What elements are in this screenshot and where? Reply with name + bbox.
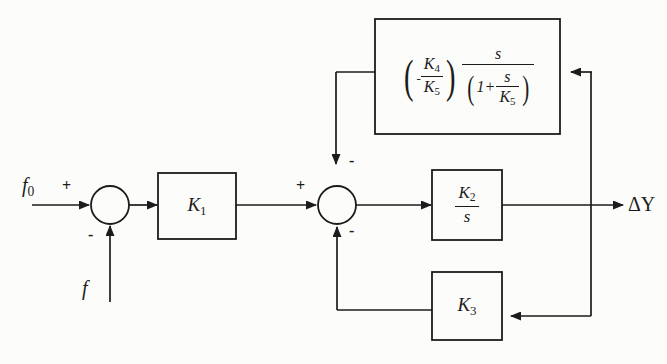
washout-leading-sign: - xyxy=(416,71,420,87)
sign-minus-sum2-bottom: - xyxy=(349,222,354,240)
output-label-delta-y: ΔY xyxy=(628,193,655,216)
summing-junction-1 xyxy=(91,186,129,224)
block-label-k1: K1 xyxy=(158,173,236,239)
sign-plus-sum1-left: + xyxy=(62,177,71,195)
input-label-f0: f0 xyxy=(22,174,34,200)
paren-close: ) xyxy=(446,50,456,103)
summing-junction-2 xyxy=(318,186,356,224)
block-label-k3: K3 xyxy=(432,272,502,340)
diagram-wiring xyxy=(0,0,667,364)
paren-open: ( xyxy=(404,50,414,103)
sign-plus-sum2-left: + xyxy=(296,177,305,195)
sign-minus-sum1-bottom: - xyxy=(88,226,93,244)
paren-close-inner: ) xyxy=(522,70,529,107)
paren-open-inner: ( xyxy=(467,70,474,107)
block-label-washout: ( - K4 K5 ) s (1+ s K5 ) xyxy=(375,19,560,134)
block-label-k2-over-s: K2 s xyxy=(432,170,502,240)
block-diagram-canvas: f0 + - f K1 + - - K2 s K3 ( - K4 xyxy=(0,0,667,364)
input-label-f: f xyxy=(82,277,88,300)
sign-minus-sum2-top: - xyxy=(349,152,354,170)
